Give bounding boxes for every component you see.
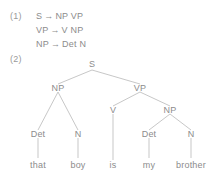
tree-leaf-that: that [30,160,46,170]
tree-leaf-boy: boy [70,160,85,170]
tree-leaf-brother: brother [176,160,206,170]
tree-node-s: S [89,59,95,69]
tree-node-n-2: N [188,129,195,139]
tree-leaf-is: is [110,160,117,170]
tree-node-np-subject: NP [52,83,65,93]
tree-leaf-my: my [143,160,155,170]
tree-branch-lines [0,0,209,180]
tree-node-n-1: N [75,129,82,139]
tree-node-det-2: Det [142,129,157,139]
tree-node-det-1: Det [31,129,46,139]
tree-node-v: V [110,105,116,115]
syntax-figure: (1) S→NP VP VP→V NP NP→Det N (2) [0,0,209,180]
tree-node-np-object: NP [164,105,177,115]
tree-node-vp: VP [134,83,146,93]
syntax-tree: S NP VP V NP Det N Det N that boy is my … [0,0,209,180]
